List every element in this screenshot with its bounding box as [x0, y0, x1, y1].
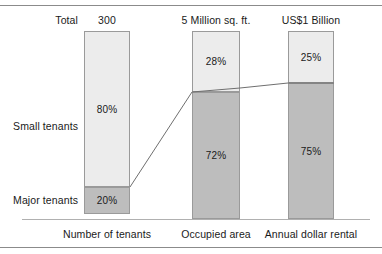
bar-segment-label: 20% [97, 195, 117, 206]
row-label-small-tenants: Small tenants [0, 120, 78, 132]
bar-segment-label: 72% [206, 150, 226, 161]
bar-header-annual-dollar-rental: US$1 Billion [241, 14, 381, 26]
stacked-bar-annual-dollar-rental: 25% 75% [288, 31, 334, 219]
bar-segment-label: 80% [97, 104, 117, 115]
stacked-bar-occupied-area: 28% 72% [192, 31, 240, 219]
row-label-major-tenants: Major tenants [0, 194, 78, 206]
bar-segment-label: 28% [206, 56, 226, 67]
bar-segment-label: 25% [301, 52, 321, 63]
bottom-divider-rule [0, 247, 382, 248]
stacked-bar-number-of-tenants: 80% 20% [84, 31, 130, 214]
bar-segment-major-tenants: 72% [192, 92, 240, 219]
baseline-axis [22, 219, 370, 220]
bar-segment-label: 75% [301, 146, 321, 157]
bar-segment-major-tenants: 75% [288, 83, 334, 219]
bar-segment-small-tenants: 28% [192, 31, 240, 92]
bar-segment-small-tenants: 25% [288, 31, 334, 83]
top-divider-rule [0, 5, 382, 6]
bar-caption-annual-dollar-rental: Annual dollar rental [231, 228, 382, 240]
bar-segment-small-tenants: 80% [84, 31, 130, 187]
bar-segment-major-tenants: 20% [84, 187, 130, 214]
chart-figure: Total Small tenants Major tenants 300 80… [0, 0, 382, 254]
